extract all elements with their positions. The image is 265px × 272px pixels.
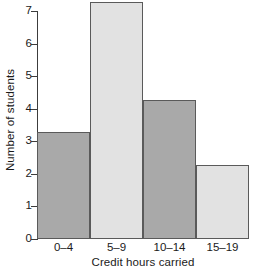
x-axis-label: Credit hours carried: [37, 256, 249, 268]
bar-5-9: [90, 2, 143, 239]
x-tick-label: 5–9: [90, 241, 143, 255]
y-tick-label: 1: [18, 201, 32, 213]
histogram-figure: Number of students 0 1 2 3 4 5 6 7 0–4 5…: [0, 0, 265, 272]
x-tick-label: 0–4: [37, 241, 90, 255]
bar-0-4: [37, 132, 90, 239]
y-tick-label: 2: [18, 168, 32, 180]
bar-15-19: [196, 165, 249, 239]
plot-area: [37, 11, 249, 239]
x-tick-label: 15–19: [196, 241, 249, 255]
y-tick-label: 5: [18, 70, 32, 82]
y-tick-label: 0: [18, 233, 32, 245]
x-tick-label: 10–14: [143, 241, 196, 255]
y-tick-mark: [31, 239, 38, 240]
y-tick-label: 4: [18, 103, 32, 115]
bar-10-14: [143, 100, 196, 239]
y-tick-label: 7: [18, 5, 32, 17]
y-tick-label: 3: [18, 136, 32, 148]
y-tick-label: 6: [18, 38, 32, 50]
y-axis-tick-labels: 0 1 2 3 4 5 6 7: [16, 0, 32, 272]
